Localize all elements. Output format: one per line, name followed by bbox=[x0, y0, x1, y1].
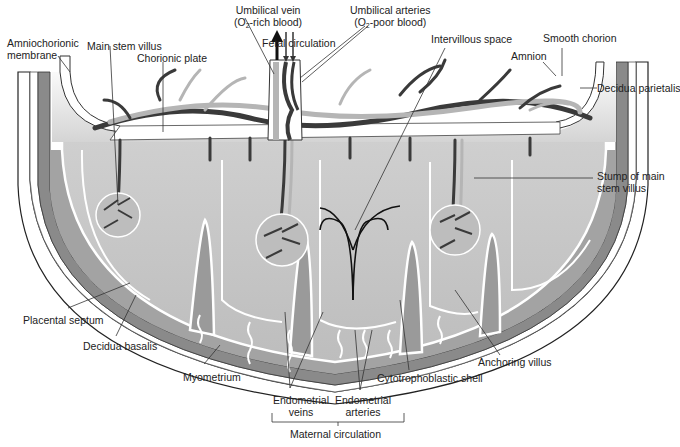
label-anchoring-villus: Anchoring villus bbox=[478, 356, 552, 368]
label-maternal-circulation: Maternal circulation bbox=[290, 428, 381, 440]
label-amnion: Amnion bbox=[511, 50, 547, 62]
label-decidua-parietalis: Decidua parietalis bbox=[597, 82, 680, 94]
label-stump-of-main-stem-villus: Stump of main stem villus bbox=[597, 170, 665, 194]
label-main-stem-villus: Main stem villus bbox=[87, 40, 162, 52]
label-myometrium: Myometrium bbox=[183, 371, 241, 383]
chorionic-vessels bbox=[95, 60, 590, 128]
label-endometrial-arteries: Endometrial arteries bbox=[335, 394, 391, 418]
label-placental-septum: Placental septum bbox=[23, 314, 104, 326]
label-fetal-circulation: Fetal circulation bbox=[262, 37, 336, 49]
label-endometrial-veins: Endometrial veins bbox=[273, 394, 329, 418]
label-cytotrophoblastic-shell: Cytotrophoblastic shell bbox=[377, 372, 483, 384]
label-decidua-basalis: Decidua basalis bbox=[83, 340, 157, 352]
label-intervillous-space: Intervillous space bbox=[431, 33, 512, 45]
label-smooth-chorion: Smooth chorion bbox=[543, 32, 617, 44]
label-umbilical-arteries: Umbilical arteries (O2-poor blood) bbox=[350, 4, 431, 28]
label-umbilical-vein: Umbilical vein (O2-rich blood) bbox=[234, 4, 302, 28]
label-chorionic-plate: Chorionic plate bbox=[137, 52, 207, 64]
label-amniochorionic-membrane: Amniochorionic membrane bbox=[7, 37, 79, 61]
